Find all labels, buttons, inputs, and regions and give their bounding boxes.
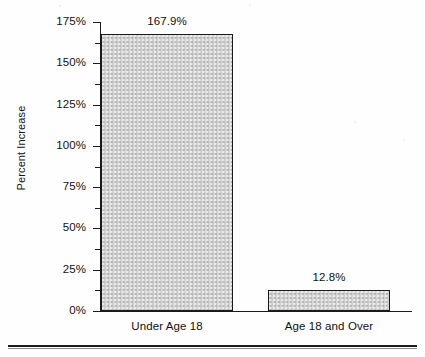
bottom-divider-rule-shadow: [8, 348, 417, 349]
bar-value-label-under-age-18: 167.9%: [107, 15, 227, 27]
x-axis-line: [100, 311, 412, 312]
y-tick-label-wrap: 0%: [30, 304, 86, 318]
y-tick-major: [93, 105, 101, 106]
y-tick-major: [93, 228, 101, 229]
y-axis-title: Percent Increase: [15, 83, 27, 213]
x-axis-category-age-18-and-over: Age 18 and Over: [249, 320, 409, 332]
y-tick-major: [93, 63, 101, 64]
bar-chart-figure: Percent Increase 0%25%50%75%100%125%150%…: [0, 0, 425, 357]
bottom-divider-rule: [8, 345, 417, 347]
y-tick-label-wrap: 125%: [30, 98, 86, 112]
y-tick-major: [93, 22, 101, 23]
y-tick-label: 175%: [30, 15, 86, 27]
y-tick-major: [93, 187, 101, 188]
y-tick-major: [93, 146, 101, 147]
y-tick-label: 50%: [30, 221, 86, 233]
y-tick-label: 125%: [30, 98, 86, 110]
y-tick-label-wrap: 25%: [30, 263, 86, 277]
y-tick-label-wrap: 75%: [30, 180, 86, 194]
bar-under-age-18[interactable]: [101, 34, 233, 311]
bar-value-label-age-18-and-over: 12.8%: [269, 271, 389, 283]
y-tick-label-wrap: 50%: [30, 221, 86, 235]
plot-area: [101, 22, 412, 311]
y-tick-label-wrap: 150%: [30, 56, 86, 70]
y-tick-label-wrap: 100%: [30, 139, 86, 153]
y-tick-major: [93, 270, 101, 271]
y-tick-label: 150%: [30, 56, 86, 68]
y-tick-label: 0%: [30, 304, 86, 316]
x-axis-category-under-age-18: Under Age 18: [87, 320, 247, 332]
y-tick-label: 25%: [30, 263, 86, 275]
y-tick-label-wrap: 175%: [30, 15, 86, 29]
y-tick-label: 75%: [30, 180, 86, 192]
bar-age-18-and-over[interactable]: [268, 290, 390, 311]
y-tick-label: 100%: [30, 139, 86, 151]
